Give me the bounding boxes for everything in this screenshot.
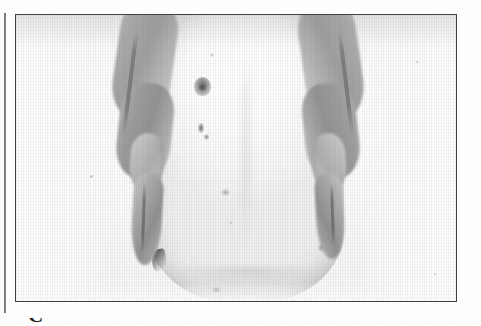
figure-frame [15, 14, 457, 302]
medical-photograph [16, 15, 456, 301]
skin-mark [204, 134, 209, 140]
scan-speck [434, 273, 436, 275]
photo-background-right [364, 15, 456, 301]
left-margin-rule [4, 13, 6, 313]
skin-mark [229, 221, 233, 225]
photo-background-left [16, 15, 108, 301]
fingers-left [130, 172, 165, 265]
hand-right [284, 15, 376, 263]
abdominal-midline [241, 55, 251, 245]
figure-caption-clipped: C [28, 318, 49, 326]
scanned-page: C [0, 0, 481, 326]
scan-speck [90, 175, 93, 178]
umbilicus [194, 77, 211, 96]
scan-speck [416, 61, 418, 63]
skin-mark [210, 53, 214, 57]
photo-background-bottom [16, 283, 456, 301]
skin-mark [221, 189, 230, 196]
hand-left [102, 15, 194, 263]
skin-mark [198, 123, 204, 133]
caption-glyph: C [28, 318, 43, 326]
